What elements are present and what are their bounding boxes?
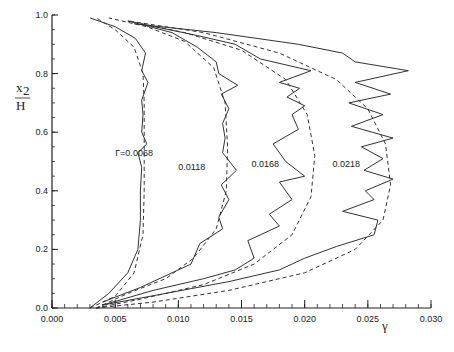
x-tick-label: 0.030	[420, 314, 443, 324]
series-line	[103, 24, 312, 305]
y-tick-label: 1.0	[35, 10, 48, 20]
curve-label: Γ=0.0068	[115, 148, 153, 158]
series-line	[90, 18, 148, 308]
curve-label: 0.0218	[332, 159, 360, 169]
series-line	[103, 21, 238, 302]
y-tick-label: 0.6	[35, 127, 48, 137]
x-tick-label: 0.025	[357, 314, 380, 324]
x-axis-title: γ	[381, 318, 388, 333]
series-line	[90, 18, 144, 308]
curve-label: 0.0118	[178, 162, 205, 172]
axes: 0.0000.0050.0100.0150.0200.0250.030 0.00…	[35, 10, 442, 324]
svg-text:H: H	[16, 98, 25, 113]
curve-label: 0.0168	[252, 159, 280, 169]
x-tick-label: 0.015	[230, 314, 253, 324]
x-tick-label: 0.005	[104, 314, 127, 324]
curve-labels: Γ=0.00680.01180.01680.0218	[115, 148, 360, 173]
svg-text:x: x	[16, 80, 23, 95]
svg-text:2: 2	[23, 83, 30, 98]
y-axis-title: x 2 H	[15, 80, 30, 113]
y-tick-label: 0.4	[35, 186, 48, 196]
y-ticks: 0.00.20.40.60.81.0	[35, 10, 58, 313]
curves	[90, 18, 408, 308]
x-tick-label: 0.020	[293, 314, 316, 324]
x-tick-label: 0.010	[167, 314, 190, 324]
series-line	[96, 18, 227, 308]
y-tick-label: 0.2	[35, 244, 48, 254]
x-tick-label: 0.000	[41, 314, 64, 324]
y-tick-label: 0.8	[35, 69, 48, 79]
y-tick-label: 0.0	[35, 303, 48, 313]
chart: 0.0000.0050.0100.0150.0200.0250.030 0.00…	[0, 0, 454, 352]
